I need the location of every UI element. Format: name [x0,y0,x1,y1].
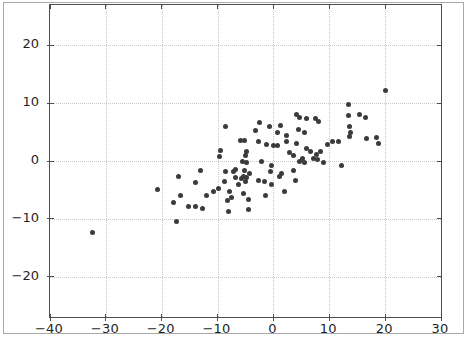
data-point [291,153,296,158]
x-tick-mark-top [385,5,386,9]
data-point [294,141,299,146]
y-tick-mark [47,276,54,277]
data-point [346,113,351,118]
data-point [279,171,284,176]
x-tick-mark-top [217,5,218,9]
data-point [247,171,252,176]
data-point [256,139,261,144]
data-point [321,160,326,165]
data-point [246,207,251,212]
data-point [364,136,369,141]
x-tick-mark-top [50,5,51,9]
data-point [217,154,222,159]
x-tick-label: 10 [306,321,350,336]
plot-area [49,4,442,318]
data-point [269,163,274,168]
data-point [253,128,258,133]
data-point [198,168,203,173]
data-point [330,139,335,144]
data-point [284,133,289,138]
y-tick-label: −20 [12,268,39,283]
data-point [296,127,301,132]
data-point [282,189,287,194]
y-tick-label: 0 [31,152,39,167]
data-point [246,197,251,202]
data-point [263,193,268,198]
data-point [229,195,234,200]
data-point [308,149,313,154]
data-point [264,142,269,147]
data-point [293,178,298,183]
data-point [174,219,179,224]
y-tick-mark-right [437,103,441,104]
x-tick-mark [441,314,442,321]
scatter-plot-figure: −40−30−20−100102030 −20−1001020 [0,0,469,345]
data-point [233,167,238,172]
y-axis-tick-labels: −20−1001020 [0,4,44,318]
data-point [284,139,289,144]
data-point [374,135,379,140]
data-point [223,124,228,129]
data-point [233,175,238,180]
data-point [275,143,280,148]
data-point [259,159,264,164]
data-point [243,179,248,184]
data-point [242,138,247,143]
data-point [297,115,302,120]
x-tick-mark [329,314,330,321]
data-point [204,193,209,198]
data-point [244,160,249,165]
y-gridline [50,277,441,278]
x-tick-mark [385,314,386,321]
data-point [155,187,160,192]
x-tick-label: −30 [83,321,127,336]
y-gridline [50,103,441,104]
y-tick-mark [47,45,54,46]
data-point [257,120,262,125]
x-tick-label: 30 [418,321,462,336]
x-tick-mark-top [273,5,274,9]
data-point [302,130,307,135]
data-point [236,182,241,187]
data-point [241,191,246,196]
x-tick-mark-top [441,5,442,9]
x-tick-mark [217,314,218,321]
y-tick-mark-right [437,161,441,162]
x-tick-mark [50,314,51,321]
data-point [278,123,283,128]
data-point [193,180,198,185]
x-tick-label: −40 [27,321,71,336]
data-point [226,209,231,214]
y-tick-mark-right [437,218,441,219]
data-point [262,179,267,184]
y-gridline [50,219,441,220]
x-axis-tick-labels: −40−30−20−100102030 [49,321,442,337]
data-point [218,148,223,153]
data-point [244,149,249,154]
x-tick-mark-top [105,5,106,9]
y-tick-mark-right [437,45,441,46]
data-point [256,178,261,183]
data-point [267,124,272,129]
x-tick-mark [273,314,274,321]
data-point [347,124,352,129]
data-point [268,169,273,174]
x-tick-mark-top [329,5,330,9]
x-tick-mark [105,314,106,321]
data-point [302,160,307,165]
data-point [227,189,232,194]
data-point [336,139,341,144]
data-point [291,168,296,173]
y-tick-mark [47,161,54,162]
x-tick-mark [161,314,162,321]
y-tick-mark [47,218,54,219]
x-tick-label: 0 [250,321,294,336]
data-point [318,149,323,154]
y-tick-label: −10 [12,210,39,225]
y-tick-label: 10 [22,94,39,109]
data-point [171,200,176,205]
data-point [222,179,227,184]
y-tick-mark-right [437,276,441,277]
data-point [186,204,191,209]
data-point [275,130,280,135]
